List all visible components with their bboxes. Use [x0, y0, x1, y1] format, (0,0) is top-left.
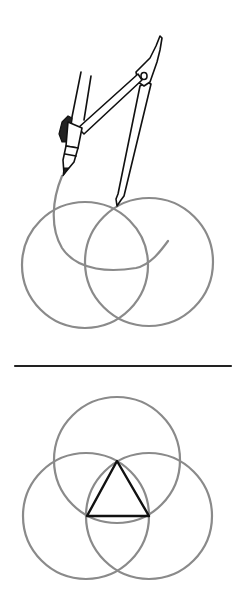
compass-needle-leg [116, 82, 151, 206]
compass-fork-right [84, 76, 91, 120]
compass-icon [59, 36, 162, 206]
equilateral-triangle [87, 461, 149, 516]
compass-pencil-lead [63, 168, 68, 176]
top-panel [22, 36, 213, 328]
compass-fork-left [71, 72, 81, 122]
arc-in-progress [54, 176, 168, 270]
construction-figure [0, 0, 244, 609]
bottom-panel [23, 397, 212, 579]
